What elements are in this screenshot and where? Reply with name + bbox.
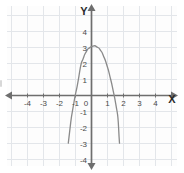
y-tick-label: -3 [80, 140, 88, 149]
x-tick-label: -4 [24, 99, 32, 108]
y-tick-label: -1 [80, 108, 88, 117]
x-tick-label: -2 [56, 99, 64, 108]
x-tick-label: 2 [121, 99, 126, 108]
graph-figure: -4-3-2-101234 4321-1-2-3-4 X Y [0, 0, 184, 173]
x-tick-label: -3 [40, 99, 48, 108]
x-tick-label: 1 [105, 99, 110, 108]
y-tick-label: -4 [80, 156, 88, 165]
coordinate-plane-chart: -4-3-2-101234 4321-1-2-3-4 X Y [0, 0, 184, 173]
y-axis-label: Y [80, 5, 88, 17]
x-tick-label: 4 [153, 99, 158, 108]
y-tick-label: 2 [83, 60, 88, 69]
x-axis-label: X [168, 93, 176, 105]
x-tick-label: 3 [137, 99, 142, 108]
y-tick-label: 3 [83, 44, 88, 53]
x-tick-label: -1 [72, 99, 80, 108]
y-tick-label: 4 [83, 28, 88, 37]
y-tick-label: -2 [80, 124, 88, 133]
y-tick-label: 1 [83, 76, 88, 85]
